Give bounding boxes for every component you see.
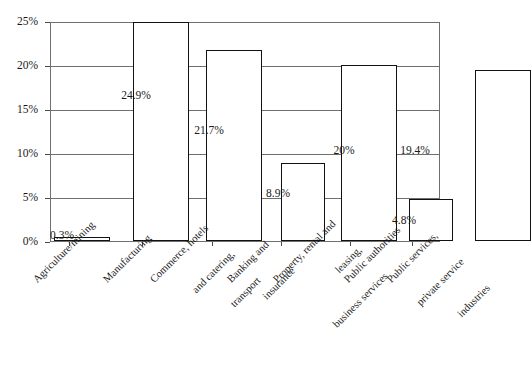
y-tick-label-5: 5% xyxy=(23,192,38,204)
bar-public-services-private-service-industries xyxy=(475,70,531,241)
x-label-line: Public services, xyxy=(385,230,441,286)
data-label-manufacturing: 24.9% xyxy=(110,89,162,101)
bar-commerce-hotels-catering-transport xyxy=(206,50,262,241)
data-label-property: 20% xyxy=(318,144,370,156)
x-label-line: private service xyxy=(411,256,467,312)
y-tick-label-25: 25% xyxy=(17,16,38,28)
data-label-public-services: 19.4% xyxy=(389,144,441,156)
x-label-line: industries xyxy=(437,282,493,338)
y-tick-label-15: 15% xyxy=(17,104,38,116)
data-label-banking: 8.9% xyxy=(252,187,304,199)
data-label-commerce: 21.7% xyxy=(183,124,235,136)
y-axis: 25% 20% 15% 10% 5% 0% xyxy=(0,0,46,368)
y-tick-label-10: 10% xyxy=(17,148,38,160)
y-tick-label-20: 20% xyxy=(17,60,38,72)
plot-area xyxy=(50,22,440,242)
bar-manufacturing xyxy=(133,22,189,241)
